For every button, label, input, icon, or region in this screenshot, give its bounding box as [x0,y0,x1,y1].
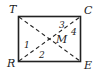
intersection-label-m: M [55,33,68,46]
angle-label-3: 3 [59,20,65,30]
angle-label-4: 4 [70,27,77,37]
vertex-label-r: R [6,57,15,70]
angle-label-2: 2 [38,50,45,60]
vertex-label-c: C [84,4,93,17]
vertex-label-t: T [9,3,18,16]
rectangle-diagram: T C R E M 1 2 3 4 [0,0,101,76]
angle-label-1: 1 [24,40,30,50]
vertex-label-e: E [83,59,92,72]
